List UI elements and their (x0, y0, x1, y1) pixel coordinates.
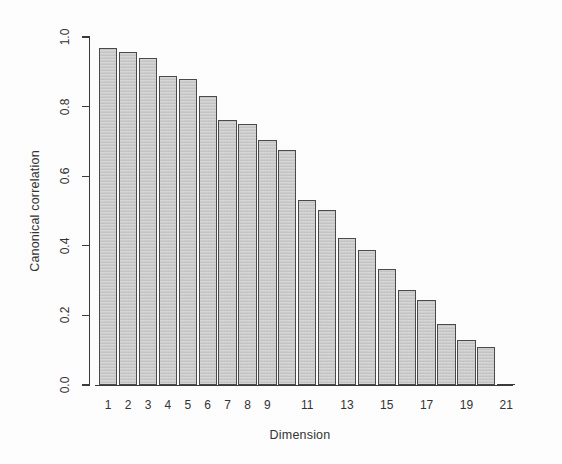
bar-dimension-9 (258, 140, 276, 385)
bar-dimension-15 (378, 269, 396, 385)
plot-area (90, 37, 510, 385)
bar-dimension-21 (497, 384, 515, 385)
bar-dimension-10 (278, 150, 296, 385)
bar-dimension-11 (298, 200, 316, 385)
x-axis-tick-label-11: 11 (295, 398, 319, 412)
bar-dimension-8 (238, 124, 256, 385)
bar-dimension-17 (417, 300, 435, 385)
canonical-correlation-scree-plot: Canonical correlation 0.00.20.40.60.81.0… (0, 0, 562, 464)
x-axis-line (95, 385, 513, 386)
y-axis-tick (82, 176, 90, 177)
x-axis-tick-label-9: 9 (255, 398, 279, 412)
bar-dimension-6 (199, 96, 217, 385)
y-axis-tick (82, 245, 90, 246)
y-axis-tick (82, 384, 90, 385)
x-axis-tick-label-13: 13 (335, 398, 359, 412)
bar-dimension-3 (139, 58, 157, 385)
bar-dimension-16 (398, 290, 416, 385)
bar-dimension-14 (358, 250, 376, 385)
bar-dimension-2 (119, 52, 137, 385)
y-axis-tick (82, 36, 90, 37)
bar-dimension-18 (437, 324, 455, 385)
y-axis-tick-label: 0.2 (56, 298, 74, 332)
x-axis-tick-label-21: 21 (494, 398, 518, 412)
x-axis-tick-label-17: 17 (415, 398, 439, 412)
x-axis-tick-label-19: 19 (454, 398, 478, 412)
y-axis-tick (82, 315, 90, 316)
y-axis-tick-label: 1.0 (56, 20, 74, 54)
y-axis-title: Canonical correlation (26, 37, 44, 385)
bar-dimension-5 (179, 79, 197, 385)
x-axis-title: Dimension (90, 428, 510, 442)
y-axis-tick-label: 0.8 (56, 90, 74, 124)
bar-dimension-19 (457, 340, 475, 385)
y-axis-tick-label: 0.0 (56, 368, 74, 402)
y-axis-tick-label: 0.6 (56, 159, 74, 193)
bar-dimension-4 (159, 76, 177, 385)
bar-dimension-13 (338, 238, 356, 385)
bar-dimension-12 (318, 210, 336, 385)
bar-dimension-20 (477, 347, 495, 385)
x-axis-tick-label-15: 15 (375, 398, 399, 412)
y-axis-tick (82, 106, 90, 107)
bar-dimension-1 (99, 48, 117, 385)
y-axis-tick-label: 0.4 (56, 229, 74, 263)
bar-dimension-7 (218, 120, 236, 385)
